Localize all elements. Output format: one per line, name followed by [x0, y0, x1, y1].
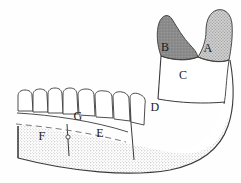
tooth-8: [130, 93, 145, 125]
label-a: A: [204, 41, 213, 55]
ramus-region-c: [158, 57, 226, 103]
label-g: G: [74, 109, 83, 123]
label-c: C: [179, 68, 187, 82]
mandible-svg: A B C D E F G: [0, 0, 241, 183]
label-e: E: [96, 126, 104, 140]
tooth-2: [33, 89, 48, 112]
label-b: B: [161, 40, 169, 54]
tooth-3: [48, 88, 63, 113]
tooth-6: [95, 91, 113, 118]
label-f: F: [39, 129, 46, 143]
tooth-7: [113, 92, 130, 121]
mental-foramen-marker: [66, 135, 70, 139]
label-d: D: [151, 100, 160, 114]
mandible-figure: A B C D E F G: [0, 0, 241, 183]
tooth-1: [18, 90, 33, 111]
